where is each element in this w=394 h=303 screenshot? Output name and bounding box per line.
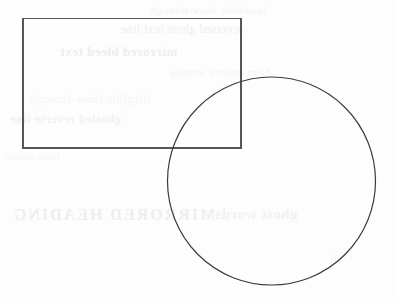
circle-shape [168,77,376,285]
scan-page: inaudible show-through reversed ghost te… [0,0,394,303]
figure-canvas [0,0,394,303]
rectangle-shape [23,19,241,149]
